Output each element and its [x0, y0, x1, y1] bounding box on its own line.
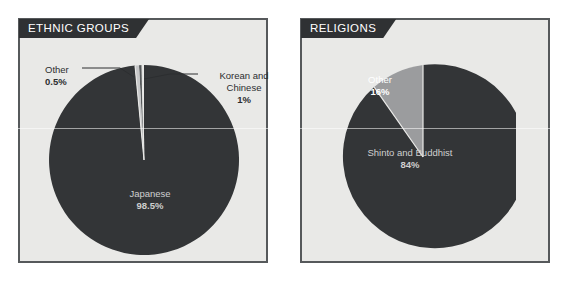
leader-line-korean-chinese [144, 74, 198, 79]
panel-title-banner-religions: RELIGIONS [301, 19, 396, 38]
infographic-sheet: ETHNIC GROUPS Other 0.5% [0, 0, 568, 281]
pie-chart-religions [330, 64, 516, 250]
panel-religions: RELIGIONS Other 16% Shinto and Buddhist … [300, 18, 550, 263]
panel-ethnic-groups: ETHNIC GROUPS Other 0.5% [18, 18, 268, 263]
pie-svg-religions [330, 64, 516, 250]
leader-lines-ethnic [20, 20, 270, 265]
panel-title-religions: RELIGIONS [310, 19, 376, 38]
leader-line-other-ethnic [82, 68, 134, 77]
pie-slice-shinto-buddhist [343, 64, 516, 248]
